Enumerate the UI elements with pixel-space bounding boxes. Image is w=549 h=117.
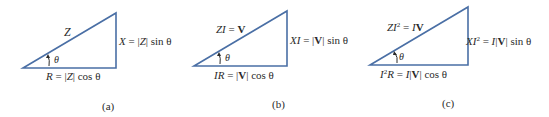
label-lhs: X	[119, 35, 126, 47]
label-eq: =	[480, 35, 492, 47]
base-side-label: IR = |V| cos θ	[214, 70, 274, 81]
vertical-side-label: X = |Z| sin θ	[119, 36, 172, 47]
label-rhs: | cos θ	[73, 70, 101, 82]
angle-label: θ	[399, 52, 404, 62]
impedance-triangle	[23, 13, 116, 68]
vertical-side-label: XI2 = I|V| sin θ	[466, 36, 531, 47]
label-eq: = |	[300, 34, 314, 46]
vertical-side-label: XI = |V| sin θ	[290, 35, 348, 46]
label-eq: =	[400, 21, 412, 33]
panel-caption: (c)	[442, 98, 454, 109]
label-rhs: | sin θ	[146, 35, 172, 47]
hypotenuse-label: ZI2 = IV	[387, 22, 424, 33]
base-side-label: I2R = I|V| cos θ	[380, 69, 447, 80]
label-rhs: V	[238, 23, 246, 35]
base-side-label: R = |Z| cos θ	[46, 71, 100, 82]
angle-label: θ	[54, 55, 59, 65]
label-eq: = |	[224, 69, 238, 81]
hypotenuse-label: Z	[64, 26, 71, 38]
label-eq: =	[226, 23, 238, 35]
angle-arrow-icon	[46, 54, 50, 66]
angle-label: θ	[225, 53, 230, 63]
label-rhs: | sin θ	[322, 34, 348, 46]
hypotenuse-label: ZI = V	[216, 24, 245, 35]
angle-arrow-icon	[217, 52, 221, 64]
panel-caption: (a)	[102, 101, 114, 112]
label-eq: = |	[53, 70, 67, 82]
label-rhs: | cos θ	[419, 68, 447, 80]
label-rhs: V	[416, 21, 424, 33]
label-rhs: | sin θ	[505, 35, 531, 47]
voltage-triangle	[194, 11, 287, 66]
label-rhs: | cos θ	[246, 69, 274, 81]
angle-arrow-icon	[393, 51, 397, 63]
label-lhs: IR	[214, 69, 224, 81]
label-lhs: XI	[466, 35, 476, 47]
label-lhs: XI	[290, 34, 300, 46]
label-lhs: R	[46, 70, 53, 82]
power-triangle	[370, 7, 468, 65]
label-eq: = |	[126, 35, 140, 47]
label-lhs: ZI	[387, 21, 397, 33]
label-lhs: ZI	[216, 23, 226, 35]
label-lhs2: R	[387, 68, 394, 80]
label-eq: =	[394, 68, 406, 80]
panel-caption: (b)	[272, 99, 285, 110]
